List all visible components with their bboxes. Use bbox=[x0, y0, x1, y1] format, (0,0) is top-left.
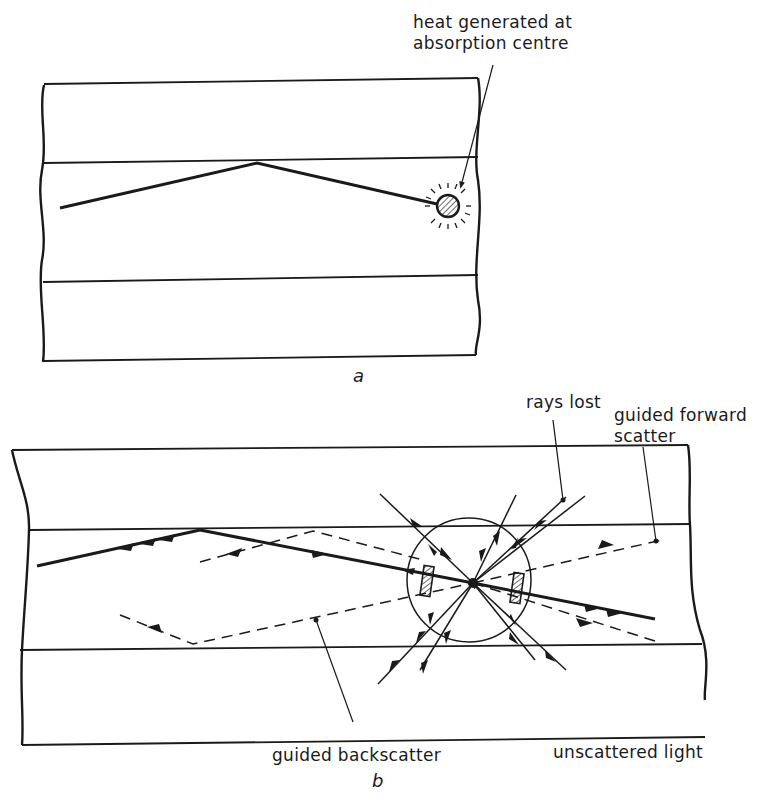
backscatter-label: guided backscatter bbox=[272, 745, 441, 766]
fibre-left-edge bbox=[12, 450, 29, 745]
heat-label-line1: heat generated at bbox=[413, 12, 572, 33]
cladding-top-line bbox=[44, 78, 478, 84]
core-bottom-line bbox=[43, 275, 478, 282]
heat-label-line2: absorption centre bbox=[413, 33, 569, 54]
hatched-slab-right bbox=[510, 572, 524, 603]
fibre-left-edge bbox=[40, 85, 44, 362]
rays-lost-label: rays lost bbox=[526, 392, 601, 413]
panel-b-caption: b bbox=[372, 770, 384, 791]
unscattered-label: unscattered light bbox=[553, 742, 703, 763]
scattered-rays bbox=[378, 494, 585, 684]
cladding-bottom-line bbox=[43, 355, 476, 361]
panel-b bbox=[12, 420, 706, 745]
ray-arrowheads bbox=[118, 534, 623, 617]
core-bottom-line bbox=[20, 644, 702, 650]
core-top-line bbox=[29, 524, 690, 530]
core-top-line bbox=[44, 157, 478, 163]
rays-lost-leader bbox=[553, 420, 563, 500]
diagram-canvas bbox=[0, 0, 768, 803]
forward-scatter-leader bbox=[643, 447, 656, 541]
forward-scatter-label-line1: guided forward bbox=[614, 405, 747, 426]
backscatter-leader bbox=[316, 620, 353, 722]
absorption-centre-icon bbox=[437, 195, 459, 217]
panel-a bbox=[40, 65, 493, 362]
scattering-centre-icon bbox=[468, 578, 478, 588]
fibre-right-edge bbox=[688, 445, 706, 700]
forward-scatter-label-line2: scatter bbox=[614, 426, 676, 447]
unscattered-ray bbox=[37, 530, 655, 619]
hatched-slab-left bbox=[420, 565, 434, 596]
guided-ray bbox=[60, 163, 437, 208]
cladding-top-line bbox=[12, 445, 688, 450]
panel-a-caption: a bbox=[353, 365, 364, 386]
scattered-ray-arrowheads bbox=[389, 518, 556, 674]
fibre-right-edge bbox=[476, 78, 480, 355]
